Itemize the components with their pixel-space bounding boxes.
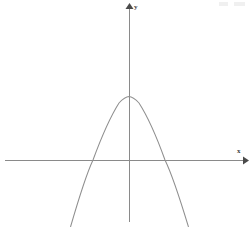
scan-artifact-mark bbox=[219, 2, 228, 6]
plot-canvas: y x bbox=[0, 0, 251, 227]
y-axis-label: y bbox=[134, 3, 138, 11]
x-axis-arrow-icon bbox=[243, 157, 249, 165]
scan-artifact-mark bbox=[234, 2, 245, 6]
parabola-plot-figure: y x bbox=[0, 0, 251, 227]
y-axis-arrow-icon bbox=[126, 3, 134, 9]
x-axis-label: x bbox=[237, 147, 241, 155]
